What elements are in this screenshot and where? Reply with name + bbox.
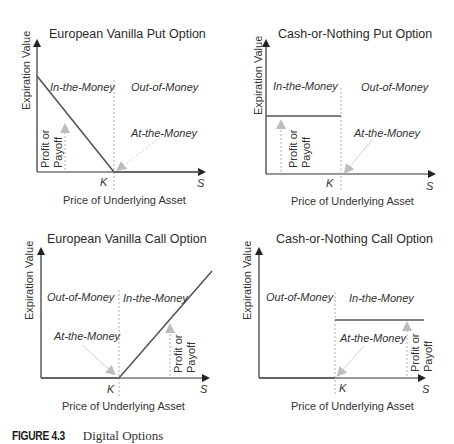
profit-label-line1: Profit or: [39, 129, 51, 168]
panel-title: European Vanilla Call Option: [47, 232, 207, 246]
profit-label-line2: Payoff: [52, 136, 64, 168]
x-axis-label: Price of Underlying Asset: [291, 400, 414, 412]
profit-label-line2: Payoff: [300, 136, 312, 168]
y-axis-label: Expiration Value: [20, 31, 32, 110]
x-axis-label: Price of Underlying Asset: [62, 400, 185, 412]
y-axis-label: Expiration Value: [241, 241, 253, 320]
region-label-left: In-the-Money: [50, 81, 116, 93]
x-axis-label: Price of Underlying Asset: [291, 195, 414, 207]
at-the-money-arrow-icon: [340, 346, 364, 373]
profit-label-line1: Profit or: [287, 129, 299, 168]
figure-caption: FIGURE 4.3 Digital Options: [12, 426, 163, 444]
strike-label: K: [326, 177, 334, 189]
figure-number: FIGURE 4.3: [12, 429, 65, 443]
profit-label-line2: Payoff: [185, 341, 197, 373]
price-label: S: [426, 180, 434, 192]
panel-title: European Vanilla Put Option: [49, 27, 206, 41]
region-label-right: In-the-Money: [349, 292, 415, 304]
price-label: S: [200, 383, 208, 395]
digital-options-figure: European Vanilla Put Option Expiration V…: [0, 0, 454, 444]
region-label-left: In-the-Money: [273, 80, 339, 92]
panel-cash-call: Cash-or-Nothing Call Option Expiration V…: [241, 232, 434, 412]
price-label: S: [197, 177, 205, 189]
strike-label: K: [339, 382, 347, 394]
y-axis-label: Expiration Value: [252, 36, 264, 115]
figure-title: Digital Options: [83, 428, 164, 443]
region-label-left: Out-of-Money: [47, 291, 116, 303]
price-label: S: [422, 383, 430, 395]
panel-title: Cash-or-Nothing Put Option: [278, 27, 432, 41]
profit-label-line1: Profit or: [409, 333, 421, 372]
region-label-right: Out-of-Money: [361, 81, 430, 93]
y-axis-label: Expiration Value: [23, 241, 35, 320]
panel-vanilla-call: European Vanilla Call Option Expiration …: [23, 232, 212, 412]
at-the-money-label: At-the-Money: [53, 330, 122, 342]
at-the-money-arrow-icon: [82, 345, 112, 372]
panel-vanilla-put: European Vanilla Put Option Expiration V…: [20, 27, 206, 206]
at-the-money-label: At-the-Money: [130, 127, 199, 139]
region-label-right: In-the-Money: [123, 292, 189, 304]
region-label-left: Out-of-Money: [266, 291, 335, 303]
panel-title: Cash-or-Nothing Call Option: [276, 232, 433, 246]
panel-cash-put: Cash-or-Nothing Put Option Expiration Va…: [252, 27, 434, 207]
at-the-money-arrow-icon: [120, 138, 160, 168]
at-the-money-label: At-the-Money: [339, 332, 408, 344]
profit-label-line2: Payoff: [422, 340, 434, 372]
strike-label: K: [100, 176, 108, 188]
at-the-money-arrow-icon: [347, 140, 372, 170]
region-label-right: Out-of-Money: [131, 81, 200, 93]
at-the-money-label: At-the-Money: [353, 127, 422, 139]
profit-label-line1: Profit or: [172, 334, 184, 373]
x-axis-label: Price of Underlying Asset: [63, 194, 186, 206]
strike-label: K: [107, 383, 115, 395]
